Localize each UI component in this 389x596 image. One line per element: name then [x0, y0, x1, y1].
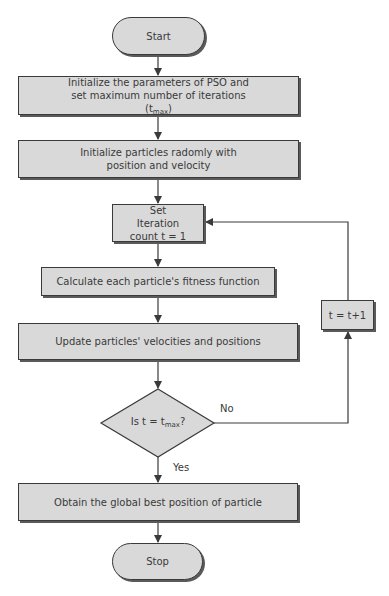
stop-terminal: Stop — [112, 543, 203, 580]
start-label: Start — [146, 30, 170, 43]
increment-box: t = t+1 — [321, 300, 374, 330]
decision-label: Is t = tmax? — [101, 416, 215, 427]
calc-fitness-box: Calculate each particle's fitness functi… — [41, 267, 275, 296]
obtain-best-box: Obtain the global best position of parti… — [18, 483, 298, 521]
increment-label: t = t+1 — [329, 309, 366, 322]
obtain-best-label: Obtain the global best position of parti… — [54, 496, 262, 509]
update-label: Update particles' velocities and positio… — [55, 335, 261, 348]
start-terminal: Start — [112, 17, 205, 55]
init-particles-box: Initialize particles radomly with positi… — [18, 140, 299, 178]
init-params-label: Initialize the parameters of PSO and set… — [59, 76, 258, 115]
calc-fitness-label: Calculate each particle's fitness functi… — [56, 275, 259, 288]
set-iteration-label: Set Iteration count t = 1 — [127, 204, 189, 243]
update-box: Update particles' velocities and positio… — [18, 323, 298, 360]
edge-label-no: No — [220, 403, 234, 414]
set-iteration-box: Set Iteration count t = 1 — [112, 204, 204, 242]
init-params-box: Initialize the parameters of PSO and set… — [18, 76, 299, 115]
init-particles-label: Initialize particles radomly with positi… — [69, 146, 248, 172]
stop-label: Stop — [146, 555, 169, 568]
edge-label-yes: Yes — [173, 462, 189, 473]
